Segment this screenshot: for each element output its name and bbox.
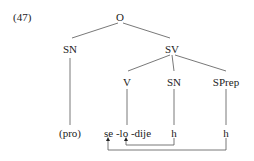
edge-o-sv: [123, 23, 170, 38]
edge-sv-sprep: [175, 55, 226, 71]
edge-sv-v: [128, 55, 170, 71]
edge-o-sn: [72, 23, 118, 38]
node-sn-object: SN: [167, 76, 181, 88]
terminal-pro: (pro): [59, 127, 81, 139]
edge-sv-sn: [172, 55, 174, 71]
node-v: V: [123, 76, 131, 88]
terminal-verb-string: se -lo -dije: [104, 127, 151, 139]
terminal-object-trace: h: [171, 127, 177, 139]
node-sprep: SPrep: [213, 76, 239, 88]
node-o: O: [116, 11, 124, 23]
movement-arrow-lo: [126, 138, 174, 145]
node-sn-subject: SN: [63, 43, 77, 55]
terminal-pp-trace: h: [223, 127, 229, 139]
node-sv: SV: [165, 43, 179, 55]
